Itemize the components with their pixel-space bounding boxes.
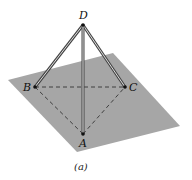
label-b: B [22, 81, 31, 94]
label-c: C [129, 81, 138, 94]
joint-a [81, 132, 85, 136]
inclined-plane [8, 53, 180, 152]
joint-c [123, 85, 127, 89]
joint-b [33, 85, 37, 89]
label-d: D [78, 9, 88, 22]
joint-d [81, 23, 85, 27]
label-a: A [78, 137, 87, 150]
figure-caption: (a) [74, 161, 88, 172]
diagram-canvas: D B C A (a) [0, 0, 192, 180]
